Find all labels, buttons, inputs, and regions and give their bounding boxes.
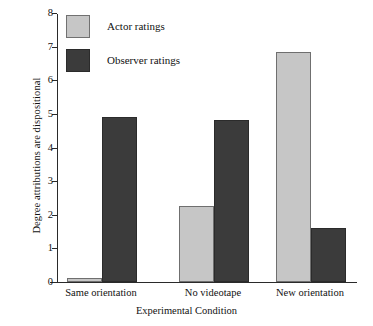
bar-chart: Degree attributions are dispositional 01… xyxy=(0,0,373,326)
legend-item: Actor ratings xyxy=(66,14,180,38)
bar xyxy=(276,52,311,282)
x-axis-title: Experimental Condition xyxy=(0,305,373,316)
bar xyxy=(67,278,102,282)
y-tick-label: 6 xyxy=(48,73,53,86)
y-axis-title: Degree attributions are dispositional xyxy=(31,36,42,276)
y-tick-label: 3 xyxy=(48,174,53,187)
x-axis-line xyxy=(50,282,357,283)
legend-label: Observer ratings xyxy=(107,54,180,66)
chart-legend: Actor ratingsObserver ratings xyxy=(66,14,180,82)
legend-item: Observer ratings xyxy=(66,48,180,72)
y-tick-label: 2 xyxy=(48,208,53,221)
y-tick-label: 5 xyxy=(48,107,53,120)
legend-swatch-icon xyxy=(66,49,90,72)
y-tick: 0 xyxy=(57,282,62,283)
category-labels: Same orientationNo videotapeNew orientat… xyxy=(57,287,357,303)
y-tick-label: 4 xyxy=(48,141,53,154)
bar xyxy=(179,206,214,282)
legend-swatch-icon xyxy=(66,15,90,38)
y-tick-label: 0 xyxy=(48,275,53,288)
category-label: Same orientation xyxy=(65,287,136,298)
y-tick-label: 1 xyxy=(48,241,53,254)
y-tick-label: 8 xyxy=(48,6,53,19)
category-label: No videotape xyxy=(185,287,241,298)
bar xyxy=(102,117,137,282)
legend-label: Actor ratings xyxy=(107,20,165,32)
y-tick-label: 7 xyxy=(48,40,53,53)
category-label: New orientation xyxy=(276,287,344,298)
bar xyxy=(311,228,346,282)
bar xyxy=(214,120,249,282)
